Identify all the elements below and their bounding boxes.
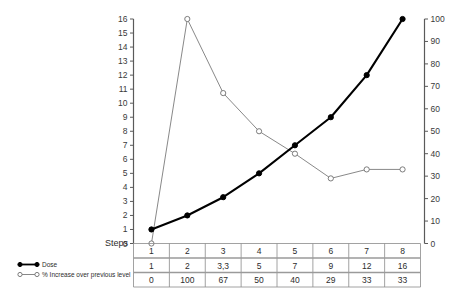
table-cell-pct: 40	[290, 275, 300, 285]
right-tick-label: 20	[431, 194, 441, 204]
left-tick-label: 1	[123, 224, 128, 234]
chart-legend: Dose % Increase over previous level	[18, 261, 131, 279]
left-tick-label: 7	[123, 140, 128, 150]
left-tick-label: 14	[118, 42, 128, 52]
series-line-pct-increase	[151, 19, 402, 244]
table-cell-pct: 100	[180, 275, 194, 285]
right-tick-label: 90	[431, 36, 441, 46]
table-cell-pct: 50	[254, 275, 264, 285]
table-cell-pct: 67	[218, 275, 228, 285]
table-cell-dose: 16	[398, 261, 408, 271]
left-tick-label: 2	[123, 210, 128, 220]
table-cell-steps: 7	[364, 246, 369, 256]
right-axis: 0102030405060708090100	[425, 14, 445, 249]
left-tick-label: 6	[123, 154, 128, 164]
legend-label-dose: Dose	[42, 261, 58, 268]
left-tick-label: 8	[123, 126, 128, 136]
legend-label-pct-increase: % Increase over previous level	[42, 271, 131, 279]
data-point	[328, 176, 333, 181]
left-tick-label: 10	[118, 98, 128, 108]
chart-svg: 012345678910111213141516 010203040506070…	[0, 0, 462, 300]
table-cell-dose: 3,3	[217, 261, 229, 271]
right-tick-label: 40	[431, 149, 441, 159]
table-cell-steps: 1	[149, 246, 154, 256]
legend-item-pct-increase: % Increase over previous level	[18, 271, 131, 279]
plot-area	[149, 16, 405, 246]
legend-marker-pct-start	[18, 272, 22, 276]
table-cell-steps: 6	[328, 246, 333, 256]
series-line-dose	[151, 19, 402, 229]
legend-marker-dose-end	[35, 262, 39, 266]
legend-item-dose: Dose	[18, 261, 58, 268]
table-cell-dose: 12	[362, 261, 372, 271]
chart-figure: 012345678910111213141516 010203040506070…	[0, 0, 462, 300]
left-tick-label: 15	[118, 28, 128, 38]
right-tick-label: 80	[431, 59, 441, 69]
data-point	[149, 227, 154, 232]
right-tick-label: 60	[431, 104, 441, 114]
left-tick-label: 5	[123, 168, 128, 178]
right-tick-label: 0	[431, 239, 436, 249]
data-point	[221, 195, 226, 200]
left-tick-label: 13	[118, 56, 128, 66]
data-point	[328, 115, 333, 120]
table-cell-pct: 33	[362, 275, 372, 285]
left-tick-label: 3	[123, 196, 128, 206]
data-point	[256, 171, 261, 176]
table-cell-dose: 7	[293, 261, 298, 271]
data-point	[400, 16, 405, 21]
table-cell-steps: 2	[185, 246, 190, 256]
table-cell-steps: 5	[293, 246, 298, 256]
left-tick-label: 4	[123, 182, 128, 192]
table-cell-pct: 33	[398, 275, 408, 285]
legend-marker-pct-end	[35, 272, 39, 276]
right-tick-label: 100	[431, 14, 445, 24]
data-point	[185, 16, 190, 21]
table-cell-steps: 4	[257, 246, 262, 256]
data-point	[364, 73, 369, 78]
right-axis-ticks: 0102030405060708090100	[425, 14, 445, 249]
x-axis-label: Steps	[105, 238, 129, 248]
data-point	[185, 213, 190, 218]
series-markers-pct-increase	[149, 16, 405, 246]
data-point	[364, 167, 369, 172]
table-cell-dose: 5	[257, 261, 262, 271]
table-cell-steps: 8	[400, 246, 405, 256]
data-point	[400, 167, 405, 172]
right-tick-label: 50	[431, 126, 441, 136]
left-tick-label: 11	[119, 84, 128, 94]
data-point	[292, 151, 297, 156]
table-cell-steps: 3	[221, 246, 226, 256]
data-point	[256, 129, 261, 134]
data-table: 12345678123,357912160100675040293333	[134, 244, 421, 288]
right-tick-label: 10	[431, 216, 441, 226]
left-tick-label: 12	[118, 70, 128, 80]
right-tick-label: 30	[431, 171, 441, 181]
left-axis: 012345678910111213141516	[118, 14, 133, 249]
series-markers-dose	[149, 16, 405, 232]
legend-marker-dose-start	[18, 262, 22, 266]
right-tick-label: 70	[431, 81, 441, 91]
table-cell-dose: 2	[185, 261, 190, 271]
left-axis-ticks: 012345678910111213141516	[118, 14, 133, 249]
table-cell-dose: 1	[149, 261, 154, 271]
table-cell-pct: 0	[149, 275, 154, 285]
data-point	[221, 90, 226, 95]
data-point	[292, 143, 297, 148]
table-cell-dose: 9	[328, 261, 333, 271]
table-cell-pct: 29	[326, 275, 336, 285]
left-tick-label: 9	[123, 112, 128, 122]
left-tick-label: 16	[118, 14, 128, 24]
